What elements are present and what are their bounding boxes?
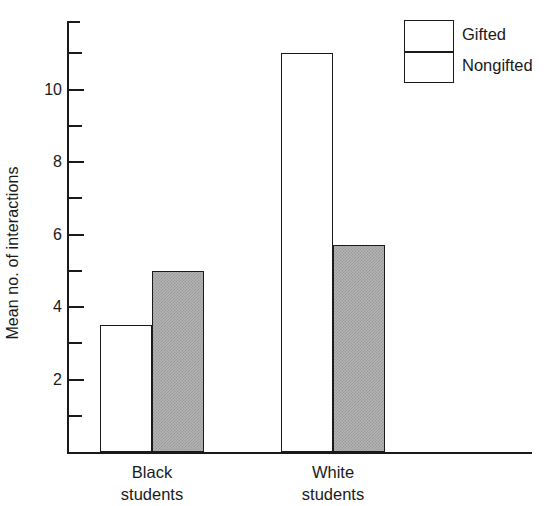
y-tick-major (69, 306, 84, 308)
y-axis-top-cap (67, 21, 80, 23)
y-tick-major (69, 89, 84, 91)
legend-label-nongifted: Nongifted (462, 57, 533, 74)
y-tick-major (69, 161, 84, 163)
y-tick-label: 10 (18, 81, 62, 99)
x-axis-line (67, 452, 532, 454)
x-axis-label-white-students: White students (251, 462, 415, 506)
y-tick-label: 6 (18, 226, 62, 244)
y-axis-line (67, 21, 69, 454)
y-tick-label: 8 (18, 153, 62, 171)
legend-swatch-gifted (404, 20, 454, 52)
bar-gifted-black-students (100, 325, 152, 452)
bar-chart: Mean no. of interactions 246810 Black st… (0, 0, 547, 506)
y-tick-minor (69, 270, 82, 272)
bar-nongifted-black-students (152, 271, 204, 452)
bar-nongifted-white-students (333, 245, 385, 452)
y-tick-label: 2 (18, 371, 62, 389)
y-tick-label: 4 (18, 298, 62, 316)
legend-swatch-nongifted (404, 52, 454, 84)
y-tick-label-text: 8 (53, 153, 62, 171)
y-tick-major (69, 379, 84, 381)
y-tick-label-text: 4 (53, 298, 62, 316)
y-tick-label-text: 6 (53, 226, 62, 244)
y-axis-title: Mean no. of interactions (0, 0, 26, 506)
y-tick-minor (69, 342, 82, 344)
x-axis-label-black-students: Black students (70, 462, 234, 506)
legend-label-gifted: Gifted (462, 26, 506, 43)
y-tick-minor (69, 197, 82, 199)
y-tick-minor (69, 125, 82, 127)
bar-gifted-white-students (281, 53, 333, 452)
y-tick-minor (69, 52, 82, 54)
y-tick-label-text: 10 (44, 81, 62, 99)
legend (404, 20, 454, 83)
y-tick-major (69, 234, 84, 236)
y-tick-minor (69, 415, 82, 417)
y-tick-label-text: 2 (53, 371, 62, 389)
